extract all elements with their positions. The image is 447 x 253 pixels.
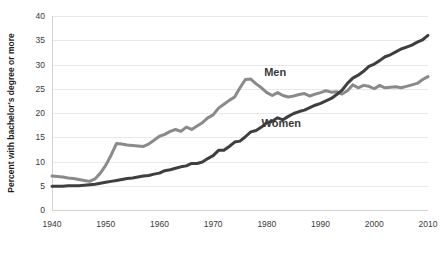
chart-background — [0, 0, 447, 253]
y-tick-label-25: 25 — [36, 84, 46, 94]
x-tick-label-2000: 2000 — [365, 219, 384, 229]
x-tick-label-1970: 1970 — [204, 219, 223, 229]
x-tick-label-2010: 2010 — [419, 219, 438, 229]
x-tick-label-1950: 1950 — [96, 219, 115, 229]
line-chart: 0510152025303540 19401950196019701980199… — [0, 0, 447, 253]
chart-container: 0510152025303540 19401950196019701980199… — [0, 0, 447, 253]
y-tick-label-15: 15 — [36, 132, 46, 142]
annotation-label-women: Women — [261, 117, 301, 129]
x-tick-label-1940: 1940 — [43, 219, 62, 229]
y-axis-title: Percent with bachelor's degree or more — [6, 33, 16, 193]
x-tick-label-1960: 1960 — [150, 219, 169, 229]
y-tick-label-0: 0 — [40, 205, 45, 215]
x-tick-label-1990: 1990 — [311, 219, 330, 229]
y-tick-label-20: 20 — [36, 108, 46, 118]
y-axis-title-text: Percent with bachelor's degree or more — [6, 33, 16, 193]
annotation-label-men: Men — [264, 66, 286, 78]
y-tick-label-10: 10 — [36, 157, 46, 167]
y-tick-label-40: 40 — [36, 11, 46, 21]
y-tick-label-30: 30 — [36, 60, 46, 70]
x-tick-label-1980: 1980 — [257, 219, 276, 229]
y-tick-label-5: 5 — [40, 181, 45, 191]
y-tick-label-35: 35 — [36, 35, 46, 45]
